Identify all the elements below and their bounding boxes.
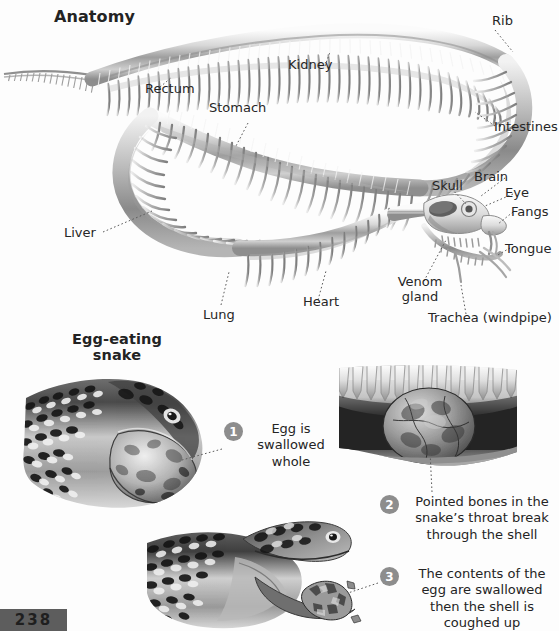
shell-cough-photo-3 (147, 517, 362, 631)
label-fangs: Fangs (511, 205, 549, 220)
step-1-callout: 1 Egg is swallowed whole (224, 421, 334, 470)
page-number: 238 (15, 611, 52, 629)
label-trachea-windpipe: Trachea (windpipe) (428, 311, 552, 326)
label-eye: Eye (505, 186, 529, 201)
label-venom-gland: Venom gland (388, 275, 452, 304)
egg-eating-snake-title: Egg-eating snake (52, 331, 182, 363)
label-liver: Liver (64, 226, 96, 241)
label-tongue: Tongue (505, 242, 551, 257)
anatomy-section-title: Anatomy (54, 8, 135, 26)
label-heart: Heart (303, 295, 339, 310)
label-rectum: Rectum (145, 82, 195, 97)
egg-swallow-photo-1 (22, 372, 222, 514)
step-1-number: 1 (224, 422, 243, 441)
step-2-callout: 2 Pointed bones in the snake’s throat br… (380, 494, 559, 543)
page-number-plate: 238 (0, 609, 67, 631)
egg-title-line1: Egg-eating (72, 331, 162, 347)
step-2-text: Pointed bones in the snake’s throat brea… (406, 494, 558, 543)
step-1-text: Egg is swallowed whole (250, 421, 332, 470)
label-skull: Skull (432, 179, 463, 194)
label-intestines: Intestines (494, 120, 558, 135)
step-2-number: 2 (380, 495, 399, 514)
label-kidney: Kidney (288, 58, 332, 73)
step-3-text: The contents of the egg are swallowed th… (406, 566, 558, 631)
label-brain: Brain (474, 170, 508, 185)
egg-title-line2: snake (93, 347, 141, 363)
label-venom-line2: gland (402, 289, 438, 304)
step-3-number: 3 (380, 567, 399, 586)
throat-cutaway-photo-2 (333, 364, 523, 482)
label-rib: Rib (492, 14, 513, 29)
anatomy-page: Anatomy Egg-eating snake Rectum Kidney R… (0, 0, 559, 631)
step-3-callout: 3 The contents of the egg are swallowed … (380, 566, 559, 631)
label-stomach: Stomach (209, 101, 266, 116)
label-venom-line1: Venom (398, 274, 443, 289)
label-lung: Lung (203, 308, 235, 323)
